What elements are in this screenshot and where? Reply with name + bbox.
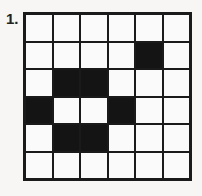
- grid-cell-filled: [108, 97, 136, 125]
- problem-number: 1.: [6, 10, 19, 27]
- grid-cell-empty: [108, 152, 136, 180]
- grid-cell-empty: [80, 97, 108, 125]
- grid-cell-empty: [163, 124, 191, 152]
- grid-cell-empty: [135, 14, 163, 42]
- grid-cell-filled: [80, 69, 108, 97]
- grid-cell-empty: [25, 42, 53, 70]
- grid-cell-empty: [53, 42, 81, 70]
- grid-cell-empty: [25, 152, 53, 180]
- grid-cell-empty: [135, 69, 163, 97]
- grid-cell-empty: [163, 42, 191, 70]
- grid-cell-empty: [25, 69, 53, 97]
- grid-cell-empty: [135, 124, 163, 152]
- grid-cell-filled: [135, 42, 163, 70]
- grid-cell-filled: [53, 69, 81, 97]
- grid-cell-empty: [80, 14, 108, 42]
- grid-cell-empty: [163, 14, 191, 42]
- grid-cell-filled: [25, 97, 53, 125]
- grid-cell-empty: [135, 152, 163, 180]
- grid-cell-empty: [25, 14, 53, 42]
- grid-cell-empty: [53, 152, 81, 180]
- grid-cell-filled: [53, 124, 81, 152]
- grid-cell-empty: [108, 69, 136, 97]
- grid-cell-empty: [108, 14, 136, 42]
- grid-cell-empty: [163, 69, 191, 97]
- grid-cell-empty: [163, 97, 191, 125]
- grid-cell-empty: [135, 97, 163, 125]
- grid-cell-empty: [163, 152, 191, 180]
- pattern-grid: [23, 12, 192, 181]
- grid-cell-empty: [108, 42, 136, 70]
- grid-cell-empty: [53, 14, 81, 42]
- grid-cell-empty: [80, 42, 108, 70]
- grid-cell-filled: [80, 124, 108, 152]
- grid-cell-empty: [25, 124, 53, 152]
- grid-cell-empty: [53, 97, 81, 125]
- grid-cell-empty: [108, 124, 136, 152]
- grid-cell-empty: [80, 152, 108, 180]
